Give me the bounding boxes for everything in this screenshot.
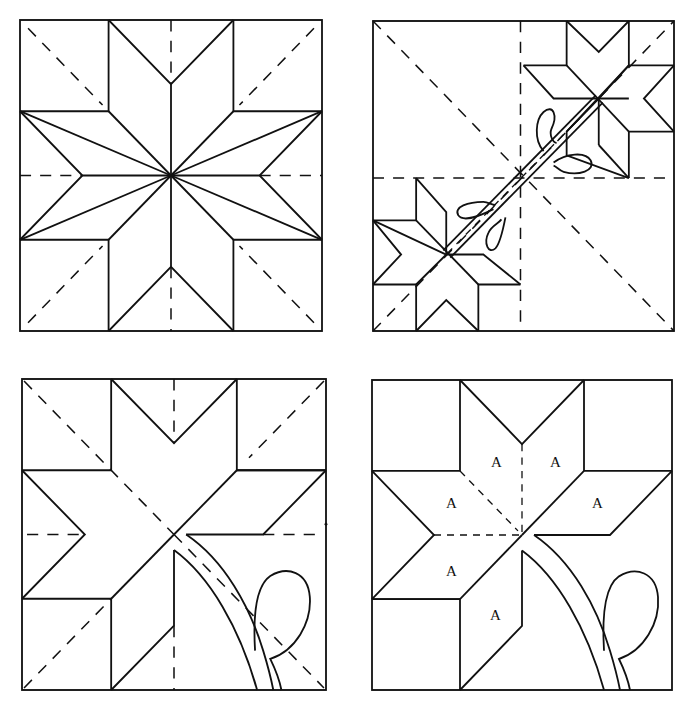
diamond-label: A	[446, 562, 457, 579]
tulip-stem-diagram	[22, 379, 326, 690]
double-star-diagram	[373, 21, 674, 331]
quilt-block-tulip-stem	[22, 379, 326, 690]
diamond-label: A	[550, 453, 561, 470]
labeled-diagram: A A A A A A	[372, 380, 672, 690]
diamond-label: A	[491, 453, 502, 470]
diamond-label: A	[490, 606, 501, 623]
small-star-upper-right	[524, 21, 675, 178]
quilt-block-double-star-stem	[373, 21, 674, 331]
quilt-block-star	[20, 20, 322, 331]
diamond-label: A	[446, 494, 457, 511]
star-diagram	[20, 20, 322, 331]
quilt-block-labeled: A A A A A A	[372, 380, 672, 690]
diamond-label: A	[592, 494, 603, 511]
